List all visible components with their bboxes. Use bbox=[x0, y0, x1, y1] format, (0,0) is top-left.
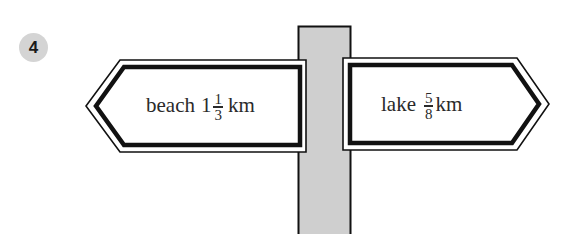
left-sign-fraction: 1 3 bbox=[213, 92, 223, 121]
right-sign-label: lake 5 8 km bbox=[381, 87, 462, 121]
left-sign-denominator: 3 bbox=[213, 108, 223, 122]
left-sign-whole: 1 bbox=[201, 93, 212, 118]
left-sign-numerator: 1 bbox=[213, 92, 223, 106]
signpost-illustration bbox=[0, 0, 567, 234]
left-sign-label: beach 1 1 3 km bbox=[146, 88, 255, 122]
right-sign-place: lake bbox=[381, 92, 416, 117]
right-sign-numerator: 5 bbox=[424, 91, 434, 105]
right-sign-unit: km bbox=[435, 92, 462, 117]
left-sign-unit: km bbox=[228, 93, 255, 118]
right-sign-denominator: 8 bbox=[424, 107, 434, 121]
right-sign-fraction: 5 8 bbox=[424, 91, 434, 120]
left-sign-place: beach bbox=[146, 93, 195, 118]
